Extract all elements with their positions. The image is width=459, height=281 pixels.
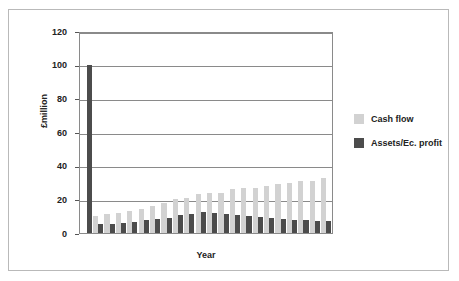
legend-swatch-icon: [354, 114, 364, 124]
y-tick-label-80: 80: [31, 95, 67, 104]
bar-group: [206, 33, 217, 233]
bar-group: [218, 33, 229, 233]
y-tick-label-60: 60: [31, 129, 67, 138]
bar-group: [127, 33, 138, 233]
x-axis-label: Year: [79, 250, 333, 260]
legend-item[interactable]: Cash flow: [354, 114, 450, 124]
bar-group: [115, 33, 126, 233]
bar-group: [286, 33, 297, 233]
y-tick-label-120: 120: [31, 28, 67, 37]
bar-assets-profit: [87, 65, 92, 233]
y-tick-label-20: 20: [31, 196, 67, 205]
bar-assets-profit: [303, 220, 308, 233]
bar-group: [241, 33, 252, 233]
bar-group: [81, 33, 92, 233]
bar-assets-profit: [326, 221, 331, 233]
bar-group: [195, 33, 206, 233]
bar-assets-profit: [98, 224, 103, 233]
bar-assets-profit: [258, 217, 263, 233]
bar-assets-profit: [155, 219, 160, 233]
bar-group: [92, 33, 103, 233]
bar-assets-profit: [189, 214, 194, 233]
bar-group: [172, 33, 183, 233]
legend-item[interactable]: Assets/Ec. profit: [354, 138, 450, 148]
y-tick-label-0: 0: [31, 230, 67, 239]
bar-assets-profit: [121, 223, 126, 233]
bar-assets-profit: [224, 214, 229, 233]
bar-group: [309, 33, 320, 233]
y-tick-label-40: 40: [31, 162, 67, 171]
bar-group: [104, 33, 115, 233]
bar-assets-profit: [212, 213, 217, 233]
bar-assets-profit: [167, 218, 172, 233]
chart-legend: Cash flowAssets/Ec. profit: [354, 114, 450, 162]
legend-label: Cash flow: [371, 114, 414, 124]
bar-group: [149, 33, 160, 233]
y-axis-label: £million: [39, 68, 49, 154]
legend-label: Assets/Ec. profit: [371, 138, 442, 148]
bar-group: [184, 33, 195, 233]
bar-assets-profit: [178, 215, 183, 233]
bar-assets-profit: [281, 219, 286, 233]
legend-swatch-icon: [354, 138, 364, 148]
bar-group: [229, 33, 240, 233]
bar-group: [275, 33, 286, 233]
bar-assets-profit: [144, 220, 149, 233]
bar-group: [264, 33, 275, 233]
y-tick-mark-0: [75, 234, 79, 235]
bar-group: [138, 33, 149, 233]
bar-assets-profit: [269, 218, 274, 233]
bar-assets-profit: [246, 216, 251, 233]
bar-chart: 020406080100120 £million Year Cash flowA…: [9, 10, 450, 272]
plot-area: [79, 32, 333, 234]
y-tick-label-100: 100: [31, 61, 67, 70]
bar-group: [298, 33, 309, 233]
chart-frame: 020406080100120 £million Year Cash flowA…: [8, 9, 449, 271]
bar-assets-profit: [110, 224, 115, 233]
bar-assets-profit: [132, 222, 137, 233]
bar-series-container: [80, 33, 332, 233]
bar-assets-profit: [201, 212, 206, 233]
bar-group: [252, 33, 263, 233]
bar-group: [161, 33, 172, 233]
bar-assets-profit: [315, 221, 320, 233]
bar-group: [321, 33, 332, 233]
bar-assets-profit: [292, 220, 297, 233]
bar-assets-profit: [235, 215, 240, 233]
